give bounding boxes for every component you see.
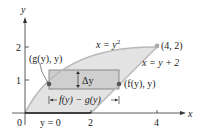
x-axis-arrow-icon	[180, 111, 186, 115]
x-tick-label-4: 4	[154, 117, 159, 128]
label-point-g: (g(y), y)	[29, 53, 62, 65]
leader-line	[40, 64, 48, 83]
label-point-f: (f(y), y)	[124, 78, 156, 90]
y-axis-label: y	[20, 4, 26, 15]
parabola-label: x = y2	[95, 38, 121, 50]
y-tick-label-2: 2	[16, 42, 21, 53]
y-axis-arrow-icon	[23, 17, 27, 23]
width-label: f(y) − g(y)	[59, 94, 101, 106]
x-tick-label-2: 2	[88, 117, 93, 128]
width-arrowhead-right-icon	[115, 99, 118, 102]
origin-label: 0	[17, 117, 22, 128]
point-f	[117, 82, 122, 87]
label-point-4-2: (4, 2)	[161, 40, 183, 52]
bottom-label: y = 0	[40, 117, 61, 128]
x-axis-label: x	[187, 108, 193, 119]
y-tick-label-1: 1	[16, 75, 21, 86]
point-4-2	[155, 44, 160, 49]
delta-y-label: Δy	[82, 75, 93, 86]
line-label: x = y + 2	[141, 57, 179, 68]
area-between-curves-diagram: y x 0 2 4 1 2 y = 0 (4, 2) (g(y), y) (f(…	[0, 0, 204, 129]
